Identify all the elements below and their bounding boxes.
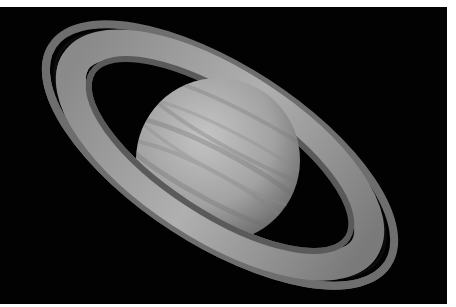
image-frame xyxy=(0,0,456,307)
saturn-photo xyxy=(0,7,447,304)
saturn-illustration xyxy=(0,7,447,304)
